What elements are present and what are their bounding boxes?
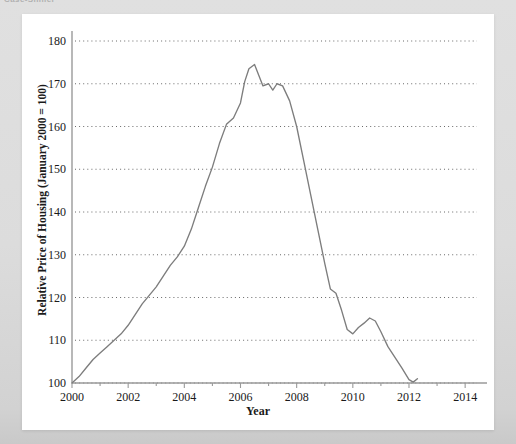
x-axis-tick-label: 2002 (116, 390, 140, 405)
y-axis-tick-label: 100 (32, 376, 66, 391)
y-axis-tick-label: 170 (32, 76, 66, 91)
x-axis-tick-label: 2012 (397, 390, 421, 405)
clipped-header-text: Case-Shiller (4, 0, 55, 2)
y-axis-tick-label: 180 (32, 34, 66, 49)
y-axis-tick-label: 150 (32, 162, 66, 177)
x-axis-tick-label: 2004 (172, 390, 196, 405)
y-axis-tick-label: 130 (32, 247, 66, 262)
y-axis-tick-label: 120 (32, 290, 66, 305)
x-axis-tick-label: 2000 (60, 390, 84, 405)
x-axis-tick-label: 2008 (285, 390, 309, 405)
chart-plot-area: Relative Price of Housing (January 2000 … (22, 14, 494, 430)
y-axis-tick-label: 110 (32, 333, 66, 348)
housing-price-line (72, 65, 417, 383)
y-axis-tick-label: 140 (32, 205, 66, 220)
x-axis-tick-label: 2014 (453, 390, 477, 405)
axis-ticks (72, 383, 465, 388)
gridlines (75, 41, 477, 383)
figure-card: Relative Price of Housing (January 2000 … (22, 14, 494, 430)
x-axis-title: Year (22, 404, 494, 419)
y-axis-tick-label: 160 (32, 119, 66, 134)
x-axis-tick-label: 2010 (341, 390, 365, 405)
x-axis-tick-label: 2006 (228, 390, 252, 405)
line-chart-svg (22, 14, 494, 430)
axis-lines (72, 31, 487, 383)
